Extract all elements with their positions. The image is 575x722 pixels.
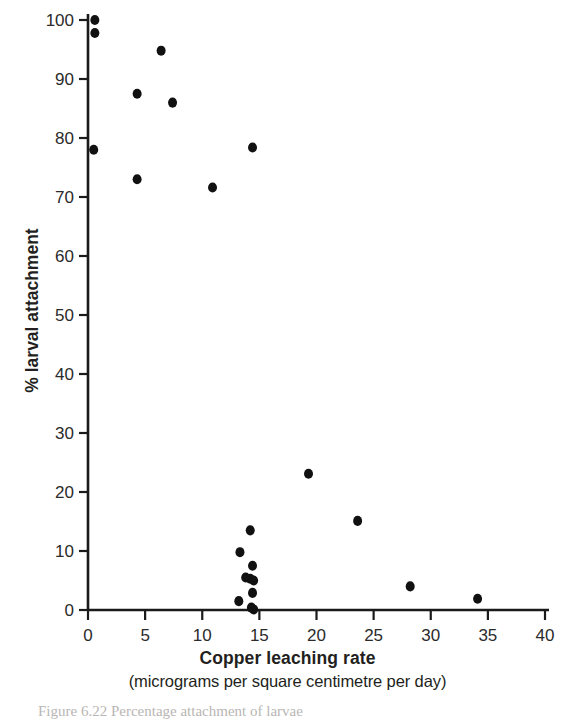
y-tick-label: 50 xyxy=(55,306,74,325)
x-tick-label: 10 xyxy=(193,626,212,645)
x-tick-label: 0 xyxy=(83,626,92,645)
y-axis-title: % larval attachment xyxy=(22,191,43,431)
x-tick-label: 5 xyxy=(140,626,149,645)
x-axis-title: Copper leaching rate xyxy=(0,648,575,669)
data-point xyxy=(406,581,415,591)
data-point xyxy=(248,142,257,152)
x-tick-label: 40 xyxy=(536,626,555,645)
x-tick-label: 30 xyxy=(421,626,440,645)
x-axis-units-label: (micrograms per square centimetre per da… xyxy=(0,672,575,691)
data-point xyxy=(304,469,313,479)
x-tick-label: 35 xyxy=(478,626,497,645)
scatter-plot: 01020304050607080901000510152025303540 xyxy=(0,0,575,722)
y-tick-label: 60 xyxy=(55,247,74,266)
data-point xyxy=(353,516,362,526)
x-tick-label: 20 xyxy=(307,626,326,645)
y-tick-label: 70 xyxy=(55,188,74,207)
y-tick-label: 40 xyxy=(55,365,74,384)
data-point xyxy=(89,145,98,155)
data-point xyxy=(90,15,99,25)
data-point xyxy=(234,596,243,606)
y-tick-label: 20 xyxy=(55,483,74,502)
y-tick-label: 90 xyxy=(55,70,74,89)
data-point xyxy=(246,525,255,535)
data-point xyxy=(133,174,142,184)
y-tick-label: 80 xyxy=(55,129,74,148)
chart-canvas: 01020304050607080901000510152025303540 xyxy=(0,0,575,722)
data-point xyxy=(157,46,166,56)
y-tick-label: 100 xyxy=(46,11,74,30)
data-point xyxy=(133,89,142,99)
data-point xyxy=(90,28,99,38)
data-point xyxy=(249,604,258,614)
data-point xyxy=(168,98,177,108)
x-tick-label: 25 xyxy=(364,626,383,645)
figure-container: 01020304050607080901000510152025303540 C… xyxy=(0,0,575,722)
data-point xyxy=(235,547,244,557)
figure-caption: Figure 6.22 Percentage attachment of lar… xyxy=(38,703,558,720)
y-tick-label: 30 xyxy=(55,424,74,443)
y-tick-label: 0 xyxy=(65,601,74,620)
data-point xyxy=(249,575,258,585)
data-point xyxy=(248,588,257,598)
data-point xyxy=(208,183,217,193)
x-tick-label: 15 xyxy=(250,626,269,645)
y-tick-label: 10 xyxy=(55,542,74,561)
data-point xyxy=(248,561,257,571)
data-point xyxy=(473,594,482,604)
